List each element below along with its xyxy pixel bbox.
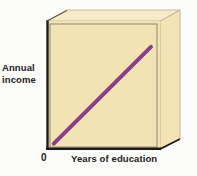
figure-container: Annual income 0 Years of education	[0, 0, 197, 176]
block-side-face	[160, 10, 180, 150]
x-axis-label: Years of education	[71, 153, 157, 164]
x-axis-origin-label: 0	[41, 152, 47, 163]
chart-3d-block	[0, 0, 197, 176]
block-top-face	[47, 10, 180, 21]
